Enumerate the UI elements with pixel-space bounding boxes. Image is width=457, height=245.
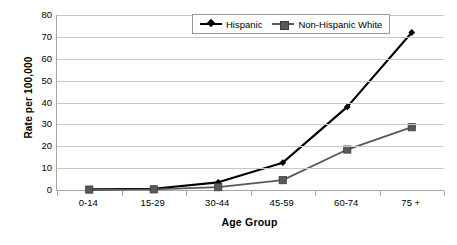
legend-label: Non-Hispanic White bbox=[298, 19, 382, 30]
series-line bbox=[89, 127, 412, 189]
x-axis-tick bbox=[122, 191, 123, 196]
x-axis-tick bbox=[315, 191, 316, 196]
chart-legend: HispanicNon-Hispanic White bbox=[192, 14, 390, 34]
y-axis-tick-label: 0 bbox=[26, 185, 52, 195]
data-point-marker bbox=[86, 186, 93, 193]
line-chart: Rate per 100,000 80706050403020100 0-141… bbox=[0, 0, 457, 245]
y-axis-tick-label: 10 bbox=[26, 163, 52, 173]
series-line bbox=[89, 33, 412, 190]
x-axis-tick bbox=[251, 191, 252, 196]
x-axis-tick-label: 30-44 bbox=[182, 197, 252, 209]
x-axis-tick bbox=[444, 191, 445, 196]
data-point-marker bbox=[279, 177, 286, 184]
x-axis-tick-label: 15-29 bbox=[118, 197, 188, 209]
gridline bbox=[57, 124, 444, 125]
gridline bbox=[57, 37, 444, 38]
series-non-hispanic-white bbox=[86, 124, 416, 194]
gridline bbox=[57, 59, 444, 60]
x-axis-tick-label: 0-14 bbox=[53, 197, 123, 209]
data-point-marker bbox=[215, 184, 222, 191]
x-axis-tick bbox=[186, 191, 187, 196]
gridline bbox=[57, 81, 444, 82]
x-axis-tick bbox=[380, 191, 381, 196]
y-axis-tick-label: 60 bbox=[26, 54, 52, 64]
x-axis-title: Age Group bbox=[56, 216, 443, 228]
y-axis-tick-label: 40 bbox=[26, 98, 52, 108]
square-marker-icon bbox=[272, 19, 294, 29]
y-axis-tick-label: 20 bbox=[26, 141, 52, 151]
y-axis-tick-label: 80 bbox=[26, 10, 52, 20]
y-axis-tick-label: 30 bbox=[26, 119, 52, 129]
legend-entry: Non-Hispanic White bbox=[272, 19, 382, 30]
legend-label: Hispanic bbox=[226, 19, 262, 30]
x-axis-tick-label: 60-74 bbox=[311, 197, 381, 209]
legend-entry: Hispanic bbox=[200, 19, 262, 30]
gridline bbox=[57, 103, 444, 104]
gridline bbox=[57, 168, 444, 169]
plot-area bbox=[56, 15, 444, 191]
y-axis-tick-label: 50 bbox=[26, 76, 52, 86]
x-axis-tick-label: 45-59 bbox=[247, 197, 317, 209]
data-point-marker bbox=[150, 186, 157, 193]
x-axis-tick bbox=[57, 191, 58, 196]
x-axis-tick-label: 75 + bbox=[376, 197, 446, 209]
y-axis-tick-labels: 80706050403020100 bbox=[26, 8, 52, 198]
diamond-marker-icon bbox=[200, 19, 222, 29]
gridline bbox=[57, 146, 444, 147]
x-axis-tick-labels: 0-1415-2930-4445-5960-7475 + bbox=[56, 197, 443, 211]
y-axis-tick-label: 70 bbox=[26, 32, 52, 42]
